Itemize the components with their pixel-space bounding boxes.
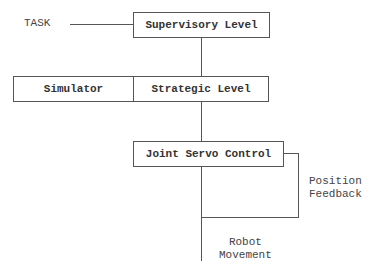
joint-to-robot-connector — [201, 167, 202, 261]
simulator-box: Simulator — [13, 76, 134, 102]
position-feedback-line1: Position — [309, 175, 362, 188]
strategic-to-joint-connector — [201, 102, 202, 141]
simulator-label: Simulator — [44, 83, 103, 95]
joint-servo-control-box: Joint Servo Control — [133, 141, 284, 167]
strategic-level-box: Strategic Level — [133, 76, 269, 102]
position-feedback-label: Position Feedback — [309, 175, 362, 201]
robot-movement-label: Robot Movement — [219, 236, 272, 262]
joint-servo-control-label: Joint Servo Control — [146, 148, 271, 160]
feedback-connector-right — [298, 153, 299, 218]
supervisory-level-label: Supervisory Level — [145, 19, 257, 31]
task-label: TASK — [24, 17, 50, 30]
supervisory-to-strategic-connector — [201, 38, 202, 76]
robot-movement-line2: Movement — [219, 249, 272, 262]
strategic-level-label: Strategic Level — [151, 83, 250, 95]
supervisory-level-box: Supervisory Level — [133, 12, 270, 38]
feedback-connector-bottom — [201, 217, 299, 218]
robot-movement-line1: Robot — [219, 236, 272, 249]
position-feedback-line2: Feedback — [309, 188, 362, 201]
task-connector — [70, 24, 133, 25]
feedback-connector-top — [284, 153, 299, 154]
